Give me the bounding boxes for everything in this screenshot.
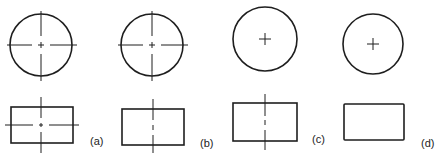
circle-a-centerlines xyxy=(7,11,77,81)
circle-d-center-mark xyxy=(367,38,379,50)
panel-d xyxy=(343,14,404,140)
panel-a xyxy=(5,11,79,153)
circle-b-centerlines xyxy=(118,11,188,81)
circle-c-center-mark xyxy=(259,33,271,45)
rect-a-centerlines xyxy=(5,97,79,153)
panel-label-c: (c) xyxy=(312,133,325,145)
rect-d xyxy=(344,104,404,140)
panel-b xyxy=(118,11,188,153)
panel-label-b: (b) xyxy=(200,137,213,149)
panel-c xyxy=(233,7,297,150)
drawing-canvas xyxy=(0,0,441,156)
panel-label-d: (d) xyxy=(421,137,434,149)
panel-label-a: (a) xyxy=(90,135,103,147)
